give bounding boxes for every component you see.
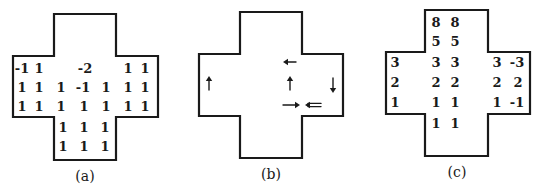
- grid-value: 1: [123, 61, 132, 76]
- grid-value: 1: [140, 80, 149, 95]
- grid-value: 5: [450, 34, 459, 49]
- grid-value: 2: [492, 75, 501, 90]
- grid-value: 1: [431, 95, 440, 110]
- grid-value: 1: [79, 139, 88, 154]
- grid-value: 1: [58, 120, 67, 135]
- grid-value: 1: [140, 99, 149, 114]
- figure-cross-diagrams: -11-211111-11111111111111111 (a) (b) 885…: [0, 0, 545, 188]
- grid-value: 1: [34, 99, 43, 114]
- grid-value: 2: [390, 75, 399, 90]
- arrow-up-left-arm-icon: [206, 76, 212, 90]
- grid-value: 3: [390, 55, 399, 70]
- grid-value: 1: [100, 139, 109, 154]
- grid-value: -2: [78, 61, 92, 76]
- panel-a: -11-211111-11111111111111111 (a): [13, 14, 158, 184]
- arrow-down-right-arm-icon: [330, 78, 336, 93]
- double-arrow-left-bottom-icon: [305, 102, 321, 108]
- arrow-left-top-icon: [283, 59, 296, 65]
- grid-value: 1: [101, 80, 110, 95]
- grid-value: 3: [450, 55, 459, 70]
- grid-value: 2: [513, 75, 522, 90]
- caption-a: (a): [75, 168, 94, 184]
- grid-value: 1: [56, 80, 65, 95]
- grid-value: 8: [450, 15, 459, 30]
- grid-value: 3: [431, 55, 440, 70]
- grid-value: 3: [492, 55, 501, 70]
- panel-b: (b): [199, 12, 343, 182]
- caption-c: (c): [448, 164, 467, 180]
- grid-value: 1: [17, 99, 26, 114]
- panel-c: 88553333-3222221111-111 (c): [386, 10, 530, 180]
- grid-value: 1: [58, 139, 67, 154]
- grid-value: 1: [123, 80, 132, 95]
- grid-value: 1: [56, 99, 65, 114]
- grid-value: 1: [101, 99, 110, 114]
- diagram-canvas: -11-211111-11111111111111111 (a) (b) 885…: [0, 0, 545, 188]
- grid-value: 1: [123, 99, 132, 114]
- grid-value: -1: [15, 61, 29, 76]
- arrow-right-bottom-icon: [283, 102, 300, 108]
- grid-value: 2: [431, 75, 440, 90]
- grid-value: 1: [34, 61, 43, 76]
- grid-value: -1: [510, 95, 524, 110]
- grid-value: 1: [17, 80, 26, 95]
- grid-value: 1: [450, 116, 459, 131]
- grid-value: 1: [79, 99, 88, 114]
- grid-value: 2: [450, 75, 459, 90]
- cross-outline-b: [199, 12, 343, 158]
- arrow-field-b: [206, 59, 336, 108]
- grid-value: 5: [431, 34, 440, 49]
- grid-value: 1: [140, 61, 149, 76]
- grid-value: 1: [34, 80, 43, 95]
- grid-value: 1: [450, 95, 459, 110]
- grid-value: -1: [76, 80, 90, 95]
- number-grid-a: -11-211111-11111111111111111: [15, 61, 150, 154]
- grid-value: 1: [100, 120, 109, 135]
- grid-value: 1: [79, 120, 88, 135]
- grid-value: 8: [431, 15, 440, 30]
- arrow-up-center-icon: [287, 76, 293, 90]
- caption-b: (b): [261, 166, 281, 182]
- grid-value: -3: [510, 55, 524, 70]
- grid-value: 1: [492, 95, 501, 110]
- grid-value: 1: [390, 95, 399, 110]
- grid-value: 1: [431, 116, 440, 131]
